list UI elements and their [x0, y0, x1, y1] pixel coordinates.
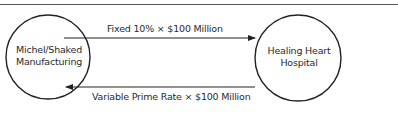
node-left-line1: Michel/Shaked [8, 44, 90, 56]
node-right-line1: Healing Heart [258, 45, 340, 57]
flow-fixed-label: Fixed 10% × $100 Million [107, 23, 223, 35]
node-right-label: Healing Heart Hospital [258, 45, 340, 69]
node-right-line2: Hospital [258, 57, 340, 69]
flow-variable-label: Variable Prime Rate × $100 Million [92, 91, 250, 103]
node-left-line2: Manufacturing [8, 56, 90, 68]
node-left-label: Michel/Shaked Manufacturing [8, 44, 90, 68]
